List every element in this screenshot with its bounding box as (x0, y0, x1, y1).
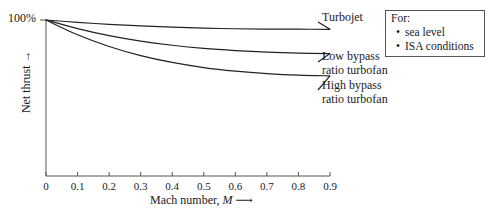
series-label-low-bypass: Low bypassratio turbofan (322, 50, 388, 78)
x-tick-label: 0.7 (254, 180, 280, 192)
bullet-icon: • (396, 26, 405, 39)
series-label-line: High bypass (322, 79, 388, 93)
legend-item-isa-conditions: •ISA conditions (396, 40, 474, 53)
series-label-high-bypass: High bypassratio turbofan (322, 79, 388, 107)
axes (40, 20, 330, 176)
series-curves (46, 20, 330, 76)
bullet-icon: • (396, 40, 405, 53)
series-curve (46, 20, 330, 76)
series-curve (46, 20, 330, 54)
x-tick-label: 0.2 (96, 180, 122, 192)
series-label-line: ratio turbofan (322, 93, 388, 107)
x-tick-label: 0 (33, 180, 59, 192)
x-axis-title: Mach number, M ⟶ (150, 194, 253, 207)
series-curve (46, 20, 330, 29)
y-axis-max-label: 100% (8, 12, 36, 25)
right-arrow-icon: ⟶ (236, 193, 253, 207)
x-tick-label: 0.3 (128, 180, 154, 192)
series-label-line: Low bypass (322, 50, 388, 64)
x-tick-label: 0.4 (159, 180, 185, 192)
up-arrow-icon: → (19, 50, 33, 62)
x-axis-title-text: Mach number, (150, 193, 223, 207)
thrust-vs-mach-chart: 100% Net thrust → Mach number, M ⟶ 00.10… (0, 0, 492, 216)
y-axis-title-text: Net thrust (19, 65, 33, 113)
legend-item-label: ISA conditions (405, 40, 474, 52)
series-label-turbojet: Turbojet (322, 11, 363, 25)
x-tick-label: 0.5 (191, 180, 217, 192)
x-tick-label: 0.8 (285, 180, 311, 192)
x-tick-label: 0.1 (65, 180, 91, 192)
legend-item-label: sea level (405, 26, 445, 38)
x-tick-label: 0.9 (317, 180, 343, 192)
series-label-line: Turbojet (322, 11, 363, 25)
series-label-line: ratio turbofan (322, 64, 388, 78)
legend-title: For: (391, 12, 410, 25)
x-axis-ticks (46, 172, 330, 176)
y-axis-title: Net thrust → (20, 42, 33, 122)
legend-item-sea-level: •sea level (396, 26, 445, 39)
x-tick-label: 0.6 (222, 180, 248, 192)
mach-symbol: M (223, 193, 233, 207)
